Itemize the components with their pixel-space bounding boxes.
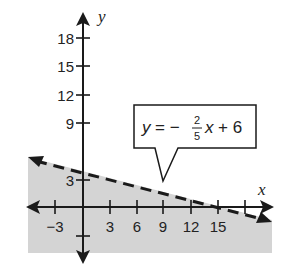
y-tick-label: 15 — [57, 58, 74, 75]
x-tick-label: 9 — [159, 218, 167, 235]
equation-callout: y = − 2 5 x + 6 — [134, 105, 256, 181]
x-tick-label: 12 — [183, 218, 200, 235]
y-tick-label: 12 — [57, 87, 74, 104]
shaded-region — [28, 157, 272, 253]
equation-y: y — [141, 118, 152, 137]
equation-x: x — [204, 118, 214, 137]
equation-numerator: 2 — [194, 114, 200, 126]
y-tick-label: 3 — [66, 172, 74, 189]
equation-equals-minus: = − — [155, 118, 180, 137]
x-axis-label: x — [257, 180, 266, 199]
x-tick-label: −3 — [46, 218, 63, 235]
x-tick-label: 3 — [106, 218, 114, 235]
y-axis-label: y — [96, 7, 106, 26]
y-tick-label: 18 — [57, 30, 74, 47]
y-tick-label: 9 — [66, 115, 74, 132]
equation-plus-six: + 6 — [218, 118, 242, 137]
x-tick-label: 15 — [210, 218, 227, 235]
inequality-graph: −3 3 6 9 12 15 3 9 12 15 18 y x y = − 2 … — [0, 0, 283, 269]
x-tick-label: 6 — [133, 218, 141, 235]
equation-denominator: 5 — [194, 130, 200, 142]
